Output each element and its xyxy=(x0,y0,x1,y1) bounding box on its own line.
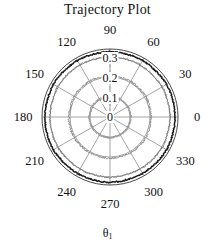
angle-tick-label-180: 180 xyxy=(14,111,33,124)
angle-tick-label-210: 210 xyxy=(25,154,44,167)
polar-chart-figure: Trajectory Plot 030609012015018021024027… xyxy=(0,0,215,245)
theta-axis-subscript: 1 xyxy=(108,232,112,241)
angle-tick-label-90: 90 xyxy=(104,24,117,37)
angle-tick-label-330: 330 xyxy=(176,154,195,167)
angle-tick-label-300: 300 xyxy=(144,186,163,199)
radial-tick-label-0-2: 0.2 xyxy=(102,72,119,84)
radial-tick-label-0-1: 0.1 xyxy=(102,92,119,104)
angle-tick-label-60: 60 xyxy=(147,35,160,48)
angle-tick-label-150: 150 xyxy=(25,67,44,80)
radial-tick-label-0: 0 xyxy=(106,111,114,123)
radial-tick-label-0-3: 0.3 xyxy=(102,52,119,64)
angle-tick-label-270: 270 xyxy=(101,198,120,211)
theta-axis-label: θ1 xyxy=(0,226,215,241)
angle-tick-label-30: 30 xyxy=(179,67,192,80)
angle-tick-label-0: 0 xyxy=(194,111,200,124)
angle-tick-label-120: 120 xyxy=(57,35,76,48)
angle-tick-label-240: 240 xyxy=(57,186,76,199)
